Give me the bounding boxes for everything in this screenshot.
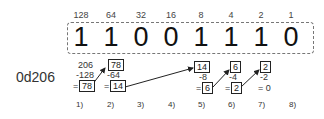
step-6-equals: = bbox=[225, 83, 230, 93]
step-label-6: 6) bbox=[228, 100, 235, 109]
step-1-equals: = bbox=[73, 81, 78, 91]
step-2-result: 14 bbox=[110, 80, 126, 92]
step-6-result: 2 bbox=[231, 82, 242, 94]
step-label-7: 7) bbox=[258, 100, 265, 109]
step-label-2: 2) bbox=[107, 100, 114, 109]
step-label-1: 1) bbox=[76, 100, 83, 109]
step-1-start: 206 bbox=[78, 60, 93, 70]
step-6-subtract: -4 bbox=[229, 72, 237, 82]
step-label-5: 5) bbox=[198, 100, 205, 109]
step-label-4: 4) bbox=[168, 100, 175, 109]
step-2-subtract: -64 bbox=[107, 70, 120, 80]
step-label-3: 3) bbox=[137, 100, 144, 109]
step-5-result: 6 bbox=[202, 82, 213, 94]
step-1-result: 78 bbox=[79, 80, 95, 92]
step-label-8: 8) bbox=[289, 100, 296, 109]
calculation-arrows bbox=[0, 0, 324, 119]
step-1-subtract: -128 bbox=[76, 70, 94, 80]
step-5-subtract: -8 bbox=[199, 72, 207, 82]
step-2-equals: = bbox=[104, 81, 109, 91]
step-7-subtract: -2 bbox=[260, 72, 268, 82]
step-7-result: = 0 bbox=[258, 83, 271, 93]
step-5-equals: = bbox=[196, 83, 201, 93]
